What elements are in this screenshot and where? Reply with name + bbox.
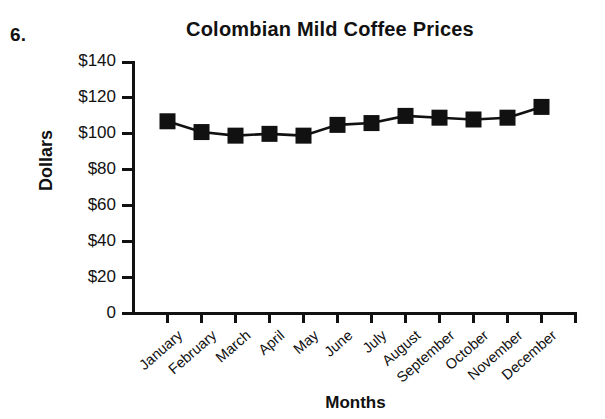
y-axis-tick [122,61,133,64]
y-axis-tick-label: $120 [48,87,116,107]
y-axis-tick [122,240,133,243]
y-axis-tick [122,312,133,315]
data-point-marker [228,128,244,144]
x-axis-tick-label: May [290,327,321,357]
y-axis-tick [122,132,133,135]
y-axis-title: Dollars [36,101,57,221]
x-axis-tick [370,312,373,323]
x-axis-tick [268,312,271,323]
data-point-marker [466,111,482,127]
data-point-marker [534,99,550,115]
y-axis-tick [122,96,133,99]
x-axis-tick-label: April [255,327,287,358]
y-axis-tick [122,276,133,279]
y-axis-tick [122,168,133,171]
x-axis-tick [336,312,339,323]
x-axis-tick [438,312,441,323]
x-axis-tick [472,312,475,323]
x-axis-tick [200,312,203,323]
data-point-marker [330,117,346,133]
y-axis-tick-label: $60 [48,195,116,215]
x-axis-tick [166,312,169,323]
data-point-marker [364,115,380,131]
x-axis-line [132,312,577,315]
x-axis-tick [574,312,577,323]
x-axis-tick [302,312,305,323]
data-point-marker [432,110,448,126]
x-axis-tick-label: June [321,327,355,360]
data-point-marker [194,124,210,140]
x-axis-tick [540,312,543,323]
x-axis-tick [234,312,237,323]
y-axis-tick-label: $80 [48,159,116,179]
x-axis-tick [506,312,509,323]
x-axis-title: Months [133,393,578,413]
data-point-marker [398,108,414,124]
x-axis-tick-label: March [212,327,253,366]
y-axis-tick-label: $20 [48,267,116,287]
data-point-marker [160,113,176,129]
series-line [168,107,542,136]
chart-plot-area: $140$120$100$80$60$40$200 JanuaryFebruar… [0,0,605,419]
data-point-marker [262,126,278,142]
y-axis-tick-label: $100 [48,123,116,143]
data-point-marker [296,128,312,144]
y-axis-tick-label: 0 [48,303,116,323]
x-axis-tick [404,312,407,323]
y-axis-tick-label: $140 [48,51,116,71]
y-axis-tick-label: $40 [48,231,116,251]
y-axis-tick [122,204,133,207]
data-point-marker [500,110,516,126]
